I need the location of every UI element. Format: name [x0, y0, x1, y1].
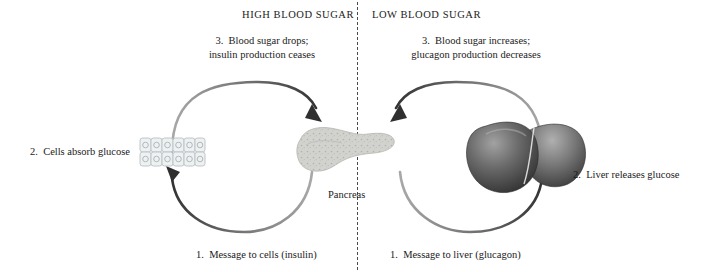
left-cycle-bottom-arrow — [166, 166, 312, 232]
liver-illustration — [467, 122, 586, 193]
right-step1-message-to-liver: 1. Message to liver (glucagon) — [390, 248, 521, 262]
right-step3-line1: 3. Blood sugar increases; — [378, 34, 574, 48]
blood-sugar-regulation-diagram: HIGH BLOOD SUGAR LOW BLOOD SUGAR — [0, 0, 714, 272]
right-step2-liver-releases-glucose: 2. Liver releases glucose — [573, 168, 679, 182]
left-step3-line2: insulin production ceases — [178, 48, 346, 62]
right-step3-line2: glucagon production decreases — [378, 48, 574, 62]
pancreas-label: Pancreas — [328, 188, 365, 202]
pancreas-illustration — [297, 128, 394, 172]
left-step1-message-to-cells: 1. Message to cells (insulin) — [196, 248, 317, 262]
left-step2-cells-absorb-glucose: 2. Cells absorb glucose — [30, 145, 130, 159]
left-step3-line1: 3. Blood sugar drops; — [178, 34, 346, 48]
cycle-arrows-layer — [0, 0, 714, 272]
